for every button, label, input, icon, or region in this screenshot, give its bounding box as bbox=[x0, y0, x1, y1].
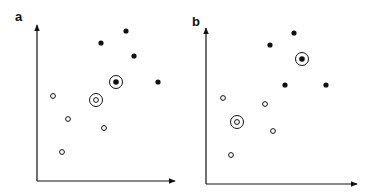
open-point bbox=[102, 126, 107, 131]
filled-point bbox=[291, 30, 296, 35]
open-point bbox=[229, 153, 234, 158]
circled-open-point bbox=[94, 98, 99, 103]
open-point bbox=[66, 117, 71, 122]
circled-open-point bbox=[235, 120, 240, 125]
filled-point bbox=[267, 42, 272, 47]
filled-point bbox=[123, 28, 128, 33]
open-point bbox=[271, 129, 276, 134]
filled-point bbox=[131, 53, 136, 58]
circled-filled-point bbox=[299, 56, 305, 62]
panel-b bbox=[206, 28, 357, 184]
scatter-diagram bbox=[0, 0, 371, 192]
open-point bbox=[51, 94, 56, 99]
filled-point bbox=[98, 40, 103, 45]
open-point bbox=[60, 150, 65, 155]
filled-point bbox=[323, 82, 328, 87]
panel-a bbox=[37, 25, 175, 181]
filled-point bbox=[155, 79, 160, 84]
circled-filled-point bbox=[113, 79, 119, 85]
filled-point bbox=[282, 82, 287, 87]
open-point bbox=[221, 96, 226, 101]
open-point bbox=[263, 102, 268, 107]
